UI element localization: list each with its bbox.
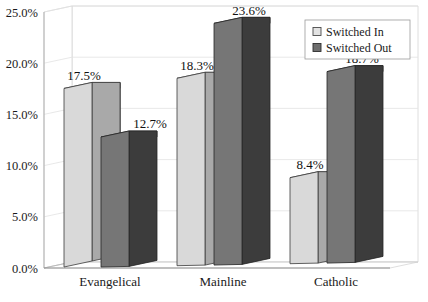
y-tick-label-15: 15.0% [6, 108, 38, 122]
bar-side-face [242, 17, 270, 264]
bar-catholic-switched-out[interactable] [327, 66, 383, 264]
y-tick-label-25: 25.0% [6, 6, 38, 20]
bar-front-face [101, 131, 129, 267]
y-tick-label-10: 10.0% [6, 159, 38, 173]
chart-canvas: 25.0% 20.0% 15.0% 10.0% 5.0% 0.0% 17. [0, 0, 428, 302]
category-label-mainline: Mainline [200, 274, 247, 289]
value-label-mainline-switched-out: 23.6% [232, 3, 266, 18]
bar-front-face [214, 17, 242, 265]
legend-swatch-light-icon [313, 28, 321, 36]
y-tick-label-20: 20.0% [6, 57, 38, 71]
value-label-evangelical-switched-out: 12.7% [133, 116, 167, 131]
value-label-catholic-switched-in: 8.4% [296, 157, 323, 172]
value-label-mainline-switched-in: 18.3% [180, 58, 214, 73]
bar-side-face [355, 66, 383, 263]
y-tick-label-0: 0.0% [12, 262, 38, 276]
y-axis-ticks: 25.0% 20.0% 15.0% 10.0% 5.0% 0.0% [6, 6, 38, 276]
bar-front-face [64, 82, 92, 267]
bar-front-face [290, 172, 318, 264]
legend: Switched In Switched Out [305, 20, 410, 59]
bar-mainline-switched-out[interactable] [214, 17, 270, 265]
x-axis-categories: Evangelical Mainline Catholic [79, 274, 358, 289]
legend-label-switched-out: Switched Out [326, 41, 392, 55]
category-label-evangelical: Evangelical [79, 274, 141, 289]
bar-front-face [327, 66, 355, 264]
bar-evangelical-switched-out[interactable] [101, 131, 157, 267]
value-label-evangelical-switched-in: 17.5% [67, 68, 101, 83]
legend-swatch-dark-icon [313, 44, 321, 52]
bar-front-face [177, 72, 205, 265]
bar-side-face [129, 131, 157, 266]
y-tick-label-5: 5.0% [12, 210, 38, 224]
category-label-catholic: Catholic [314, 274, 358, 289]
bar-chart: 25.0% 20.0% 15.0% 10.0% 5.0% 0.0% 17. [0, 0, 428, 302]
legend-label-switched-in: Switched In [326, 25, 384, 39]
